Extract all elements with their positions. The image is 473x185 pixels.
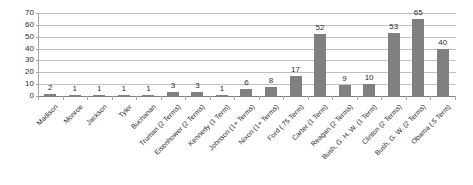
x-axis-tick-mark <box>283 96 284 100</box>
x-axis-category-label: Madison <box>36 103 60 127</box>
x-axis-tick-mark <box>357 96 358 100</box>
bar[interactable] <box>290 76 302 96</box>
x-axis-labels: MadisonMonroeJacksonTylerBuchananTruman … <box>38 101 455 185</box>
bar[interactable] <box>339 85 351 96</box>
bar[interactable] <box>437 49 449 96</box>
bar-slot: 2 <box>38 13 63 96</box>
x-axis-tick-mark <box>381 96 382 100</box>
bar-value-label: 53 <box>389 23 398 31</box>
x-axis-category-label: Monroe <box>62 103 84 125</box>
x-axis-tick-mark <box>210 96 211 100</box>
y-axis-tick-label: 70 <box>0 9 34 17</box>
bar-value-label: 1 <box>97 85 101 93</box>
x-axis-tick-mark <box>87 96 88 100</box>
x-axis-ticks <box>38 96 455 100</box>
y-axis-tick-label: 40 <box>0 45 34 53</box>
bar-slot: 65 <box>406 13 431 96</box>
bar[interactable] <box>388 33 400 96</box>
x-axis-tick-mark <box>185 96 186 100</box>
bar-value-label: 17 <box>291 66 300 74</box>
bar-value-label: 1 <box>122 85 126 93</box>
bar-slot: 3 <box>185 13 210 96</box>
x-axis-label-wrapper: Monroe <box>62 103 84 125</box>
bar-slot: 10 <box>357 13 382 96</box>
bar-slot: 1 <box>112 13 137 96</box>
bar-value-label: 6 <box>244 79 248 87</box>
bar[interactable] <box>240 89 252 96</box>
y-axis-tick-label: 0 <box>0 92 34 100</box>
y-axis-tick-label: 50 <box>0 33 34 41</box>
y-axis-tick-label: 30 <box>0 56 34 64</box>
bar[interactable] <box>314 34 326 96</box>
x-axis-label-wrapper: Madison <box>36 103 60 127</box>
bar-slot: 17 <box>283 13 308 96</box>
bars-layer: 21111331681752910536540 <box>38 13 455 96</box>
bar-slot: 9 <box>332 13 357 96</box>
bar-value-label: 1 <box>73 85 77 93</box>
x-axis-category-label: Jackson <box>85 103 109 127</box>
bar-value-label: 1 <box>220 85 224 93</box>
x-axis-tick-mark <box>332 96 333 100</box>
bar-slot: 8 <box>259 13 284 96</box>
x-axis-label-wrapper: Jackson <box>85 103 109 127</box>
x-axis-tick-mark <box>63 96 64 100</box>
x-axis-label-wrapper: Tyler <box>117 103 133 119</box>
y-axis-tick-label: 10 <box>0 80 34 88</box>
bar-value-label: 52 <box>316 24 325 32</box>
bar-slot: 1 <box>87 13 112 96</box>
bar-slot: 1 <box>136 13 161 96</box>
bar-slot: 53 <box>381 13 406 96</box>
bar[interactable] <box>265 87 277 96</box>
x-axis-category-label: Tyler <box>117 103 133 119</box>
x-axis-tick-mark <box>259 96 260 100</box>
bar-value-label: 40 <box>438 39 447 47</box>
bar-value-label: 1 <box>146 85 150 93</box>
bar-value-label: 8 <box>269 77 273 85</box>
bar-value-label: 3 <box>171 82 175 90</box>
x-axis-tick-mark <box>161 96 162 100</box>
x-axis-tick-mark <box>406 96 407 100</box>
bar-value-label: 2 <box>48 84 52 92</box>
x-axis-tick-mark <box>112 96 113 100</box>
bar-value-label: 9 <box>342 75 346 83</box>
bar[interactable] <box>363 84 375 96</box>
x-axis-tick-mark <box>234 96 235 100</box>
y-axis-tick-label: 20 <box>0 68 34 76</box>
bar-slot: 1 <box>63 13 88 96</box>
x-axis-tick-mark <box>308 96 309 100</box>
bar-slot: 6 <box>234 13 259 96</box>
x-axis-tick-mark <box>430 96 431 100</box>
y-axis-tick-label: 60 <box>0 21 34 29</box>
bar-value-label: 65 <box>414 9 423 17</box>
bar-chart: 010203040506070 21111331681752910536540 … <box>0 0 473 185</box>
bar-slot: 52 <box>308 13 333 96</box>
bar-slot: 40 <box>430 13 455 96</box>
bar[interactable] <box>412 19 424 96</box>
x-axis-tick-mark <box>136 96 137 100</box>
x-axis-tick-mark <box>38 96 39 100</box>
bar-slot: 1 <box>210 13 235 96</box>
bar-value-label: 3 <box>195 82 199 90</box>
bar-value-label: 10 <box>365 74 374 82</box>
x-axis-tick-mark <box>455 96 456 100</box>
bar-slot: 3 <box>161 13 186 96</box>
